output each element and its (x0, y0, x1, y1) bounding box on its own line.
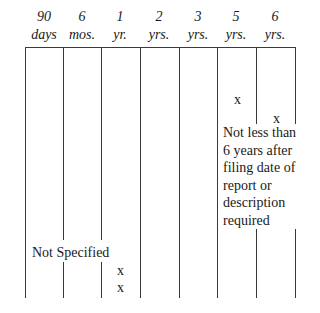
column-divider (179, 47, 180, 298)
header-num: 1 (101, 8, 139, 26)
header-unit: yrs. (179, 26, 217, 44)
header-unit: mos. (63, 26, 101, 44)
mark-1-yr-a: x (117, 262, 124, 279)
header-unit: yrs. (140, 26, 178, 44)
column-divider (217, 47, 218, 298)
header-num: 6 (63, 8, 101, 26)
header-num: 2 (140, 8, 178, 26)
header-num: 5 (217, 8, 255, 26)
header-num: 90 (25, 8, 63, 26)
header-num: 3 (179, 8, 217, 26)
header-unit: yr. (101, 26, 139, 44)
column-divider (63, 47, 64, 240)
header-unit: yrs. (256, 26, 294, 44)
column-divider (256, 47, 257, 124)
column-divider (25, 47, 26, 298)
header-unit: yrs. (217, 26, 255, 44)
header-6-yrs: 6 yrs. (256, 8, 294, 44)
mark-1-yr-b: x (117, 279, 124, 296)
six-years-note: Not less than 6 years after filing date … (223, 124, 296, 229)
column-divider (101, 47, 102, 240)
column-divider (101, 262, 102, 298)
header-5-yrs: 5 yrs. (217, 8, 255, 44)
header-unit: days (25, 26, 63, 44)
column-divider (63, 262, 64, 298)
column-divider (140, 47, 141, 298)
column-divider (256, 219, 257, 298)
header-3-yrs: 3 yrs. (179, 8, 217, 44)
mark-5-yrs: x (234, 91, 241, 108)
header-6-mos: 6 mos. (63, 8, 101, 44)
header-90-days: 90 days (25, 8, 63, 44)
not-specified-note: Not Specified (32, 244, 109, 261)
header-1-yr: 1 yr. (101, 8, 139, 44)
header-2-yrs: 2 yrs. (140, 8, 178, 44)
header-num: 6 (256, 8, 294, 26)
